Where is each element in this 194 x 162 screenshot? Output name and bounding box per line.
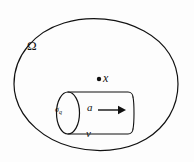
domain-label: Ω — [27, 39, 37, 52]
cylinder-far-end-arc — [133, 97, 134, 129]
cylinder-bottom-line — [68, 129, 133, 134]
inclusion-label: σq — [55, 106, 62, 115]
volume-label: v — [86, 128, 91, 139]
point-label: x — [103, 72, 108, 84]
domain-boundary-path — [14, 19, 178, 151]
direction-arrow-head — [118, 106, 126, 114]
figure-container: Ω x a v σq — [0, 0, 194, 162]
direction-label: a — [87, 102, 93, 113]
cylinder-top-line — [68, 92, 133, 97]
inclusion-subscript: q — [59, 109, 62, 115]
diagram-canvas — [0, 0, 194, 162]
interior-point-marker — [97, 77, 101, 81]
